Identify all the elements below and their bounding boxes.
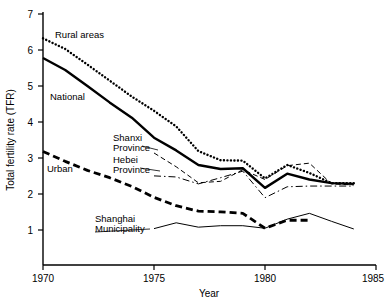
series-line-rural-areas bbox=[43, 38, 354, 183]
y-tick-label-4: 4 bbox=[27, 117, 33, 128]
x-tick-label-1980: 1980 bbox=[254, 273, 277, 284]
x-tick-label-1975: 1975 bbox=[143, 273, 166, 284]
y-tick-label-1: 1 bbox=[27, 225, 33, 236]
y-tick-label-6: 6 bbox=[27, 45, 33, 56]
y-axis-title: Total fertility rate (TFR) bbox=[5, 89, 16, 191]
series-label-national: National bbox=[50, 91, 85, 102]
series-line-national bbox=[43, 58, 354, 188]
y-tick-label-3: 3 bbox=[27, 153, 33, 164]
series-layer bbox=[43, 38, 354, 229]
x-axis-title: Year bbox=[199, 288, 220, 299]
fertility-rate-chart: 7 6 5 4 3 2 1 1970 1975 1980 1985 Year T… bbox=[0, 0, 391, 304]
axes-group bbox=[43, 12, 376, 265]
series-label-urban: Urban bbox=[47, 163, 73, 174]
series-annotations: Rural areas National Shanxi Province Heb… bbox=[47, 29, 150, 234]
series-label-hebei-2: Province bbox=[113, 164, 150, 175]
y-ticks-group: 7 6 5 4 3 2 1 bbox=[27, 9, 43, 236]
series-label-shanghai-2: Municipality bbox=[95, 223, 145, 234]
x-tick-label-1985: 1985 bbox=[362, 273, 385, 284]
x-tick-label-1970: 1970 bbox=[32, 273, 55, 284]
series-line-urban bbox=[43, 152, 309, 229]
y-tick-label-5: 5 bbox=[27, 81, 33, 92]
series-label-rural: Rural areas bbox=[55, 29, 104, 40]
y-tick-label-7: 7 bbox=[27, 9, 33, 20]
x-ticks-group: 1970 1975 1980 1985 bbox=[32, 265, 385, 284]
y-tick-label-2: 2 bbox=[27, 189, 33, 200]
chart-canvas: 7 6 5 4 3 2 1 1970 1975 1980 1985 Year T… bbox=[0, 0, 391, 304]
series-label-shanxi-2: Province bbox=[113, 142, 150, 153]
